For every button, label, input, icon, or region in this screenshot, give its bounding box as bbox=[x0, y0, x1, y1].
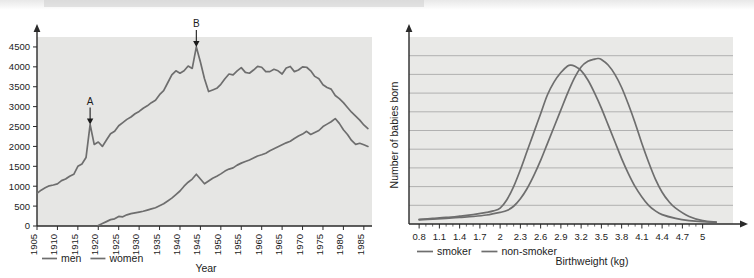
right-x-tick-label: 1.1 bbox=[433, 231, 446, 242]
right-x-tick-label: 2 bbox=[497, 231, 502, 242]
right-x-tick-label: 3.8 bbox=[615, 231, 628, 242]
left-x-tick-label: 1920 bbox=[89, 234, 100, 255]
right-x-tick-label: 3.2 bbox=[575, 231, 588, 242]
right-x-tick-label: 1.7 bbox=[473, 231, 486, 242]
left-y-tick-label: 4500 bbox=[9, 41, 30, 52]
right-x-tick-label: 0.8 bbox=[413, 231, 426, 242]
right-y-axis-title: Number of babies born bbox=[388, 81, 400, 188]
right-chart-panel: 0.81.11.41.722.32.62.93.23.53.84.14.44.7… bbox=[377, 0, 754, 278]
left-x-tick-label: 1905 bbox=[28, 234, 39, 255]
left-y-tick-label: 1500 bbox=[9, 161, 30, 172]
left-x-tick-label: 1955 bbox=[232, 234, 243, 255]
legend-label-smoker: smoker bbox=[437, 245, 472, 257]
left-x-tick-label: 1950 bbox=[212, 234, 223, 255]
left-x-tick-label: 1960 bbox=[253, 234, 264, 255]
left-y-tick-label: 2500 bbox=[9, 121, 30, 132]
right-x-tick-label: 2.3 bbox=[514, 231, 527, 242]
left-y-tick-label: 3000 bbox=[9, 101, 30, 112]
left-x-tick-label: 1965 bbox=[273, 234, 284, 255]
left-y-tick-label: 0 bbox=[25, 220, 30, 231]
legend-label-non-smoker: non-smoker bbox=[501, 245, 557, 257]
birthweight-distribution-chart: 0.81.11.41.722.32.62.93.23.53.84.14.44.7… bbox=[377, 0, 754, 278]
left-x-tick-label: 1975 bbox=[314, 234, 325, 255]
left-x-axis-title: Year bbox=[195, 262, 217, 274]
left-chart-panel: 050010001500200025003000350040004500 190… bbox=[0, 0, 377, 278]
left-y-axis-ticks: 050010001500200025003000350040004500 bbox=[9, 41, 37, 231]
legend-label-men: men bbox=[61, 252, 82, 264]
deaths-by-year-chart: 050010001500200025003000350040004500 190… bbox=[0, 0, 377, 278]
right-x-tick-label: 2.9 bbox=[554, 231, 567, 242]
left-x-axis-ticks: 1905191019151920192519301935194019451950… bbox=[28, 226, 366, 255]
left-y-tick-label: 3500 bbox=[9, 81, 30, 92]
right-x-tick-label: 2.6 bbox=[534, 231, 547, 242]
right-x-tick-label: 3.5 bbox=[595, 231, 608, 242]
left-x-tick-label: 1940 bbox=[171, 234, 182, 255]
left-plot-background bbox=[37, 37, 372, 226]
figure-root: 050010001500200025003000350040004500 190… bbox=[0, 0, 754, 278]
left-y-tick-label: 2000 bbox=[9, 141, 30, 152]
annotation-label-a: A bbox=[87, 96, 94, 107]
left-x-tick-label: 1980 bbox=[334, 234, 345, 255]
annotation-label-b: B bbox=[193, 18, 200, 29]
right-x-tick-label: 4.4 bbox=[656, 231, 669, 242]
left-x-tick-label: 1945 bbox=[191, 234, 202, 255]
left-y-tick-label: 500 bbox=[14, 201, 30, 212]
left-y-tick-label: 1000 bbox=[9, 181, 30, 192]
left-x-tick-label: 1970 bbox=[294, 234, 305, 255]
legend-label-women: women bbox=[108, 252, 143, 264]
right-x-axis-ticks: 0.81.11.41.722.32.62.93.23.53.84.14.44.7… bbox=[413, 224, 706, 242]
left-y-tick-label: 4000 bbox=[9, 61, 30, 72]
left-x-tick-label: 1910 bbox=[48, 234, 59, 255]
right-x-axis-title: Birthweight (kg) bbox=[556, 255, 629, 267]
right-legend: smokernon-smoker bbox=[417, 245, 557, 257]
left-x-tick-label: 1935 bbox=[151, 234, 162, 255]
right-x-tick-label: 4.7 bbox=[676, 231, 689, 242]
right-x-tick-label: 5 bbox=[700, 231, 705, 242]
right-x-tick-label: 4.1 bbox=[635, 231, 648, 242]
right-x-tick-label: 1.4 bbox=[453, 231, 466, 242]
left-x-tick-label: 1985 bbox=[355, 234, 366, 255]
